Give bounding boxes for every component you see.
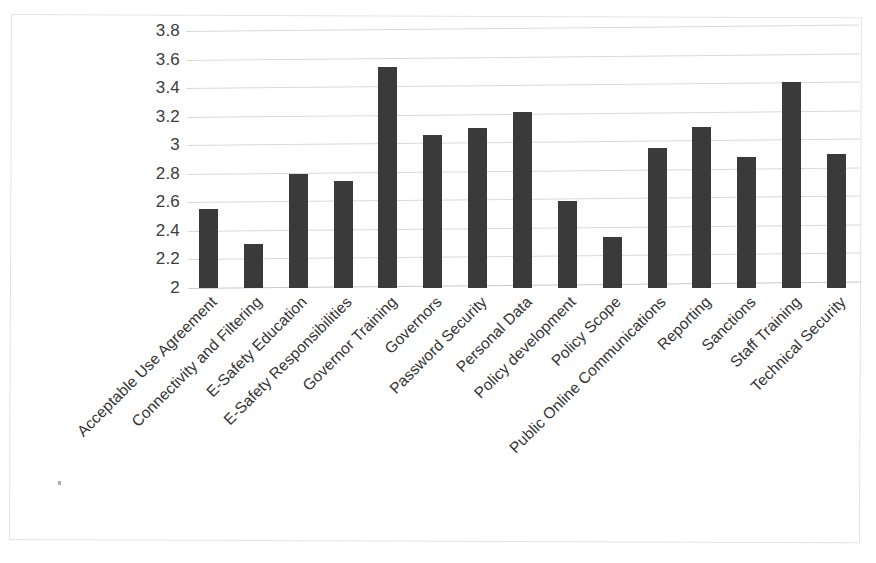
y-axis: 22.22.42.62.833.23.43.63.8 [132, 31, 180, 288]
bar[interactable] [827, 154, 846, 288]
y-axis-tick-label: 3 [170, 135, 180, 155]
y-axis-tick-label: 3.8 [156, 21, 180, 41]
y-axis-tick-label: 2 [170, 278, 180, 298]
bar-chart-figure: 22.22.42.62.833.23.43.63.8 Acceptable Us… [0, 0, 876, 563]
bar[interactable] [244, 244, 263, 288]
bar[interactable] [737, 157, 756, 288]
y-axis-tick-label: 3.4 [156, 78, 180, 98]
scan-artifact [58, 481, 61, 485]
bar[interactable] [289, 174, 308, 288]
y-axis-tick-label: 3.2 [156, 107, 180, 127]
y-axis-tick-label: 3.6 [156, 50, 180, 70]
bars-group [186, 31, 859, 288]
y-axis-tick-label: 2.8 [156, 164, 180, 184]
bar[interactable] [513, 112, 532, 288]
bar[interactable] [199, 209, 218, 288]
x-axis: Acceptable Use AgreementConnectivity and… [186, 289, 859, 489]
y-axis-tick-label: 2.2 [156, 249, 180, 269]
bar[interactable] [378, 67, 397, 288]
y-axis-tick-label: 2.6 [156, 192, 180, 212]
bar[interactable] [603, 237, 622, 288]
bar[interactable] [782, 82, 801, 288]
bar[interactable] [334, 181, 353, 288]
bar[interactable] [692, 127, 711, 288]
bar[interactable] [558, 201, 577, 288]
bar[interactable] [648, 148, 667, 288]
bar[interactable] [423, 135, 442, 288]
y-axis-tick-label: 2.4 [156, 221, 180, 241]
bar[interactable] [468, 128, 487, 288]
